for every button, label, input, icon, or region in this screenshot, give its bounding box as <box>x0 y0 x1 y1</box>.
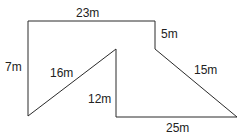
label-inner-slant: 16m <box>50 66 73 80</box>
label-top-side: 23m <box>76 6 99 20</box>
label-right-slant: 15m <box>194 63 217 77</box>
label-bottom-side: 25m <box>166 121 189 134</box>
label-inner-vertical: 12m <box>88 92 111 106</box>
label-right-step: 5m <box>161 27 178 41</box>
shape-diagram: 23m 5m 15m 25m 12m 16m 7m <box>0 0 243 134</box>
label-left-side: 7m <box>5 60 22 74</box>
